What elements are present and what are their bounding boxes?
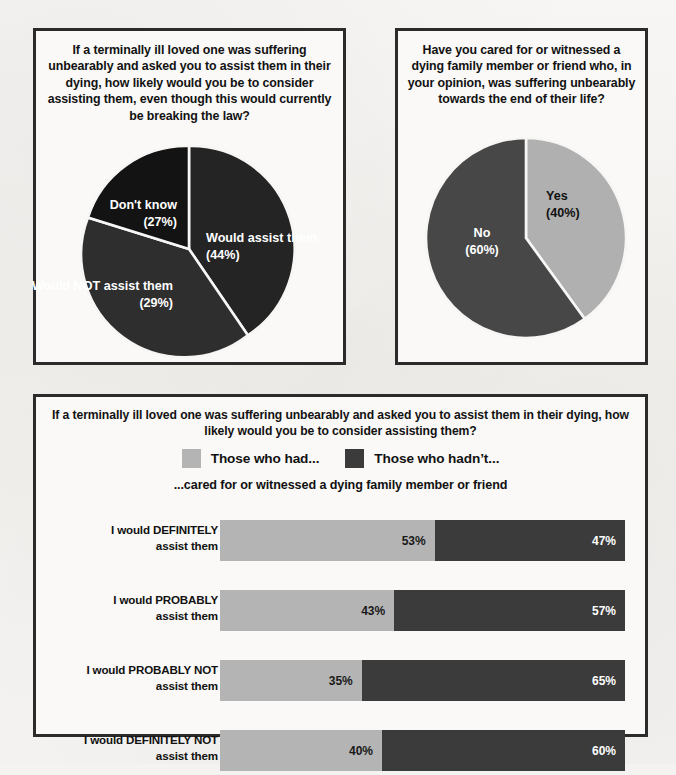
pie-one-label-dont-know-value: (27%) <box>143 215 177 229</box>
pie-two-label-no: No <box>474 226 491 240</box>
legend-swatch-dark-icon <box>345 449 364 468</box>
bar-track-definitely-assist: 53% 47% <box>220 520 625 561</box>
panel-bottom-title: If a terminally ill loved one was suffer… <box>36 397 645 440</box>
pie-one-label-would-assist-line1: Would assist them <box>206 231 317 245</box>
pie-one-label-would-not-assist-value: (29%) <box>139 296 173 310</box>
bar-segment-hadnt-definitely-not: 60% <box>382 730 625 771</box>
bar-row-definitely-assist: I would DEFINITELY assist them 53% 47% <box>36 518 645 566</box>
panel-stacked-bar-chart: If a terminally ill loved one was suffer… <box>33 394 648 737</box>
bar-segment-hadnt-definitely: 47% <box>435 520 625 561</box>
bar-chart-legend: Those who had... Those who hadn’t... <box>36 449 645 468</box>
bar-rows-container: I would DEFINITELY assist them 53% 47% I… <box>36 518 645 775</box>
bar-value-had-probably: 43% <box>361 604 394 618</box>
bar-value-hadnt-probably: 57% <box>592 604 625 618</box>
bar-value-had-definitely-not: 40% <box>349 744 382 758</box>
pie-two-label-yes-value: (40%) <box>546 206 580 220</box>
bar-category-line-1: I would PROBABLY NOT <box>36 662 218 678</box>
bar-category-line-2: assist them <box>36 608 218 624</box>
bar-category-line-2: assist them <box>36 748 218 764</box>
panel-right-title: Have you cared for or witnessed a dying … <box>398 31 645 108</box>
pie-two-svg: Yes (40%) No (60%) <box>424 136 629 341</box>
bar-category-label-definitely-not-assist: I would DEFINITELY NOT assist them <box>36 732 218 763</box>
bar-category-line-2: assist them <box>36 538 218 554</box>
pie-one-label-would-not-assist: Would NOT assist them <box>32 279 173 293</box>
bar-segment-hadnt-probably-not: 65% <box>362 660 625 701</box>
bar-track-probably-not-assist: 35% 65% <box>220 660 625 701</box>
legend-subtitle: ...cared for or witnessed a dying family… <box>36 477 645 494</box>
bar-value-hadnt-definitely: 47% <box>592 534 625 548</box>
bar-value-hadnt-definitely-not: 60% <box>592 744 625 758</box>
pie-two-label-yes: Yes <box>546 189 568 203</box>
bar-row-definitely-not-assist: I would DEFINITELY NOT assist them 40% 6… <box>36 728 645 775</box>
bar-row-probably-assist: I would PROBABLY assist them 43% 57% <box>36 588 645 636</box>
bar-row-probably-not-assist: I would PROBABLY NOT assist them 35% 65% <box>36 658 645 706</box>
bar-category-line-2: assist them <box>36 678 218 694</box>
bar-value-had-definitely: 53% <box>402 534 435 548</box>
bar-segment-hadnt-probably: 57% <box>394 590 625 631</box>
pie-two-label-no-value: (60%) <box>465 243 499 257</box>
bar-category-line-1: I would DEFINITELY NOT <box>36 732 218 748</box>
pie-chart-two: Yes (40%) No (60%) <box>424 136 629 341</box>
pie-one-label-dont-know: Don't know <box>110 198 178 212</box>
bar-segment-had-probably: 43% <box>220 590 394 631</box>
panel-pie-breaking-the-law: If a terminally ill loved one was suffer… <box>33 28 346 365</box>
bar-category-label-probably-assist: I would PROBABLY assist them <box>36 592 218 623</box>
pie-chart-one: Would assist them (44%) Would NOT assist… <box>77 143 307 355</box>
bar-track-definitely-not-assist: 40% 60% <box>220 730 625 771</box>
panel-pie-cared-for-dying: Have you cared for or witnessed a dying … <box>395 28 648 365</box>
legend-label-those-who-had: Those who had... <box>211 451 320 466</box>
panel-left-title: If a terminally ill loved one was suffer… <box>36 31 343 124</box>
bar-category-line-1: I would DEFINITELY <box>36 522 218 538</box>
legend-item-those-who-had: Those who had... <box>182 449 320 468</box>
bar-segment-had-probably-not: 35% <box>220 660 362 701</box>
pie-one-label-would-assist-value: (44%) <box>206 248 240 262</box>
bar-segment-had-definitely-not: 40% <box>220 730 382 771</box>
bar-value-hadnt-probably-not: 65% <box>592 674 625 688</box>
bar-track-probably-assist: 43% 57% <box>220 590 625 631</box>
bar-category-line-1: I would PROBABLY <box>36 592 218 608</box>
pie-one-svg: Would assist them (44%) Would NOT assist… <box>77 143 307 355</box>
legend-swatch-light-icon <box>182 449 201 468</box>
bar-category-label-definitely-assist: I would DEFINITELY assist them <box>36 522 218 553</box>
legend-label-those-who-hadnt: Those who hadn’t... <box>374 451 499 466</box>
bar-value-had-probably-not: 35% <box>329 674 362 688</box>
legend-item-those-who-hadnt: Those who hadn’t... <box>345 449 499 468</box>
bar-category-label-probably-not-assist: I would PROBABLY NOT assist them <box>36 662 218 693</box>
bar-segment-had-definitely: 53% <box>220 520 435 561</box>
